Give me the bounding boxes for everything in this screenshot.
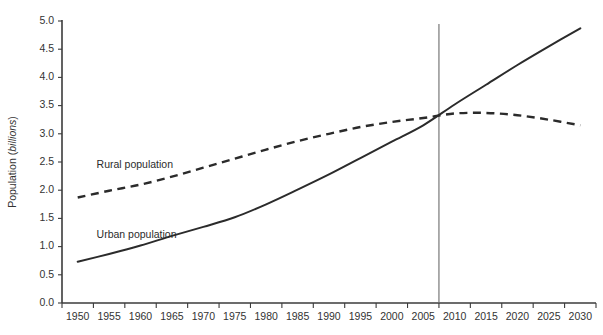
x-axis-tick-labels: 1950195519601965197019751980198519901995…: [66, 310, 592, 322]
x-tick-label: 1985: [286, 310, 310, 322]
x-tick-label: 1980: [254, 310, 278, 322]
y-tick-label: 3.5: [39, 98, 54, 110]
y-axis-title: Population (billions): [6, 116, 18, 208]
series-label-urban-population: Urban population: [97, 228, 177, 240]
x-tick-label: 2020: [506, 310, 530, 322]
x-tick-label: 1960: [129, 310, 153, 322]
y-tick-label: 1.0: [39, 239, 54, 251]
chart-figure: 0.00.51.01.52.02.53.03.54.04.55.0 195019…: [0, 0, 603, 335]
x-tick-label: 1955: [97, 310, 121, 322]
series-label-rural-population: Rural population: [97, 158, 174, 170]
y-tick-label: 4.5: [39, 42, 54, 54]
x-tick-label: 2030: [569, 310, 593, 322]
x-tick-label: 1990: [317, 310, 341, 322]
x-tick-label: 1965: [160, 310, 184, 322]
y-tick-label: 1.5: [39, 211, 54, 223]
y-tick-label: 4.0: [39, 70, 54, 82]
x-tick-label: 1995: [349, 310, 373, 322]
plot-background: [0, 0, 603, 335]
x-tick-label: 1950: [66, 310, 90, 322]
y-tick-label: 5.0: [39, 14, 54, 26]
y-tick-label: 0.5: [39, 268, 54, 280]
y-tick-label: 2.5: [39, 155, 54, 167]
x-tick-label: 2000: [380, 310, 404, 322]
x-tick-label: 2025: [537, 310, 561, 322]
y-tick-label: 0.0: [39, 296, 54, 308]
x-tick-label: 1970: [192, 310, 216, 322]
population-line-chart: 0.00.51.01.52.02.53.03.54.04.55.0 195019…: [0, 0, 603, 335]
y-tick-label: 2.0: [39, 183, 54, 195]
x-tick-label: 2010: [443, 310, 467, 322]
x-tick-label: 1975: [223, 310, 247, 322]
x-tick-label: 2015: [474, 310, 498, 322]
x-tick-label: 2005: [412, 310, 436, 322]
y-tick-label: 3.0: [39, 127, 54, 139]
